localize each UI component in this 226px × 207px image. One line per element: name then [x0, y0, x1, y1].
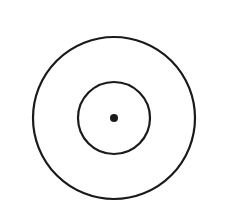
- concentric-circles-diagram: [0, 0, 226, 207]
- center-dot: [110, 114, 118, 122]
